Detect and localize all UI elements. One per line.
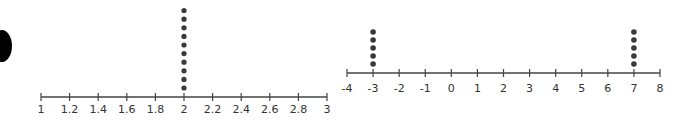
x-tick-label: 1 — [474, 82, 481, 95]
data-dot — [631, 53, 637, 59]
data-dot — [631, 61, 637, 67]
data-dot — [631, 45, 637, 51]
x-tick-label: 6 — [604, 82, 611, 95]
data-dot — [181, 17, 186, 22]
x-tick-label: -3 — [368, 82, 379, 95]
x-tick-label: 2.2 — [204, 103, 222, 116]
x-tick-label: -2 — [394, 82, 405, 95]
x-tick-label: 2 — [181, 103, 188, 116]
data-dot — [370, 45, 376, 51]
x-tick-label: 4 — [552, 82, 559, 95]
data-dot — [631, 37, 637, 43]
dot-plot-left: 11.21.41.61.822.22.42.62.83 — [38, 8, 331, 116]
data-dot — [181, 85, 186, 90]
x-tick-label: 2.6 — [261, 103, 279, 116]
data-dot — [370, 61, 376, 67]
data-dot — [370, 53, 376, 59]
dot-plot-right: -4-3-2-1012345678 — [342, 29, 664, 95]
x-tick-label: 1.6 — [118, 103, 136, 116]
data-dot — [181, 42, 186, 47]
data-dot — [181, 51, 186, 56]
x-tick-label: 1.2 — [61, 103, 79, 116]
data-dot — [181, 68, 186, 73]
data-dot — [370, 29, 376, 35]
data-dot — [181, 77, 186, 82]
left-edge-blob — [0, 30, 12, 62]
x-tick-label: -4 — [342, 82, 353, 95]
x-tick-label: 2.4 — [232, 103, 250, 116]
x-tick-label: 0 — [448, 82, 455, 95]
data-dot — [370, 37, 376, 43]
data-dot — [181, 34, 186, 39]
x-tick-label: 1.8 — [147, 103, 165, 116]
x-tick-label: 2 — [500, 82, 507, 95]
x-tick-label: 8 — [657, 82, 664, 95]
data-dot — [631, 29, 637, 35]
data-dot — [181, 8, 186, 13]
dot-plots-figure: 11.21.41.61.822.22.42.62.83 -4-3-2-10123… — [0, 0, 694, 120]
data-dot — [181, 25, 186, 30]
x-tick-label: 7 — [630, 82, 637, 95]
x-tick-label: 3 — [526, 82, 533, 95]
x-tick-label: 2.8 — [290, 103, 308, 116]
x-tick-label: 1 — [38, 103, 45, 116]
x-tick-label: 3 — [324, 103, 331, 116]
x-tick-label: 5 — [578, 82, 585, 95]
data-dot — [181, 60, 186, 65]
x-tick-label: -1 — [420, 82, 431, 95]
x-tick-label: 1.4 — [89, 103, 107, 116]
